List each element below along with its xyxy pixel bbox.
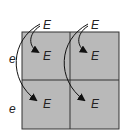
column-header-2: E bbox=[91, 18, 100, 32]
punnett-diagram: E E e e E E E E bbox=[0, 0, 128, 133]
cell-r1-c1: E bbox=[43, 49, 52, 63]
cell-r2-c2: E bbox=[91, 97, 100, 111]
grid bbox=[22, 32, 119, 129]
column-header-1: E bbox=[43, 18, 52, 32]
cell-r1-c2: E bbox=[91, 49, 100, 63]
cell-r2-c1: E bbox=[43, 97, 52, 111]
row-header-2: e bbox=[9, 102, 16, 116]
row-header-1: e bbox=[9, 52, 16, 66]
